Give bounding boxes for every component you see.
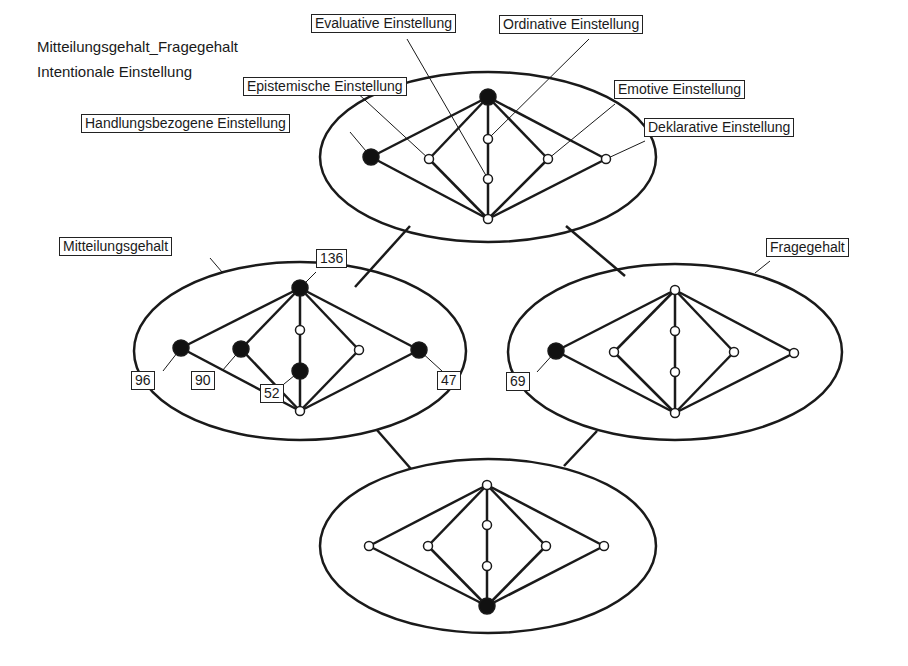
node-filled (233, 341, 249, 357)
node-open (671, 409, 680, 418)
node-open (602, 155, 611, 164)
outer-edge-left-bottom (377, 430, 411, 469)
node-open (483, 481, 492, 490)
label-ordinative: Ordinative Einstellung (499, 15, 643, 34)
node-open (296, 326, 305, 335)
node-open (365, 542, 374, 551)
label-emotive: Emotive Einstellung (614, 80, 745, 99)
leader-fragegehalt (755, 261, 770, 273)
node-open (600, 542, 609, 551)
node-open (542, 542, 551, 551)
label-handlungsbezogene: Handlungsbezogene Einstellung (81, 114, 290, 133)
outer-edge-right-bottom (564, 431, 597, 466)
count-label-96: 96 (131, 371, 155, 390)
count-label-52: 52 (260, 384, 284, 403)
leader-deklarative (606, 141, 645, 159)
node-open (483, 562, 492, 571)
node-filled (173, 340, 189, 356)
node-open (484, 215, 493, 224)
count-label-47: 47 (437, 371, 461, 390)
label-fragegehalt: Fragegehalt (766, 238, 849, 257)
count-label-136: 136 (316, 249, 347, 268)
node-open (484, 175, 493, 184)
node-filled (480, 89, 496, 105)
node-open (425, 155, 434, 164)
node-open (424, 542, 433, 551)
node-open (730, 348, 739, 357)
label-deklarative: Deklarative Einstellung (644, 118, 794, 137)
node-filled (292, 280, 308, 296)
node-filled (363, 149, 379, 165)
diagram-title: Mitteilungsgehalt_Fragegehalt (37, 38, 238, 56)
node-open (484, 135, 493, 144)
leader-mitteilungsgehalt (210, 258, 222, 272)
label-epistemische: Epistemische Einstellung (243, 77, 407, 96)
node-open (790, 349, 799, 358)
node-open (355, 346, 364, 355)
node-filled (292, 363, 308, 379)
diagram-subtitle: Intentionale Einstellung (37, 63, 192, 81)
node-open (671, 286, 680, 295)
node-open (671, 368, 680, 377)
count-label-69: 69 (506, 372, 530, 391)
nested-line-diagram (0, 0, 908, 666)
node-filled (411, 342, 427, 358)
node-open (671, 327, 680, 336)
node-open (296, 407, 305, 416)
label-evaluative: Evaluative Einstellung (311, 14, 456, 33)
outer-edge-top-left (355, 226, 410, 287)
label-mitteilungsgehalt: Mitteilungsgehalt (59, 237, 172, 256)
node-filled (548, 343, 564, 359)
count-label-90: 90 (191, 371, 215, 390)
node-open (544, 155, 553, 164)
leader-emotive (548, 104, 615, 159)
node-open (610, 348, 619, 357)
node-open (483, 521, 492, 530)
node-filled (479, 598, 495, 614)
